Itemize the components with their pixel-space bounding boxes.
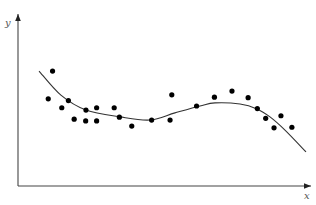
data-point-19 bbox=[246, 95, 251, 100]
data-point-16 bbox=[194, 103, 199, 108]
data-point-3 bbox=[59, 105, 64, 110]
y-axis-label: y bbox=[4, 17, 11, 28]
data-point-12 bbox=[129, 123, 134, 128]
data-point-6 bbox=[94, 105, 99, 110]
data-point-22 bbox=[278, 113, 283, 118]
data-point-23 bbox=[271, 125, 276, 130]
fitted-curve bbox=[39, 71, 306, 152]
data-point-9 bbox=[83, 118, 88, 123]
data-point-17 bbox=[212, 95, 217, 100]
data-point-24 bbox=[289, 125, 294, 130]
data-point-11 bbox=[117, 115, 122, 120]
scatter-chart: y x bbox=[0, 0, 316, 205]
data-point-4 bbox=[66, 98, 71, 103]
data-point-1 bbox=[50, 68, 55, 73]
data-point-2 bbox=[46, 96, 51, 101]
data-points bbox=[46, 68, 295, 130]
data-point-18 bbox=[229, 89, 234, 94]
data-point-21 bbox=[263, 116, 268, 121]
data-point-20 bbox=[255, 106, 260, 111]
data-point-8 bbox=[72, 117, 77, 122]
data-point-5 bbox=[83, 107, 88, 112]
data-point-10 bbox=[94, 118, 99, 123]
data-point-15 bbox=[169, 92, 174, 97]
data-point-13 bbox=[149, 117, 154, 122]
x-axis-label: x bbox=[304, 190, 310, 201]
data-point-14 bbox=[167, 117, 172, 122]
data-point-7 bbox=[112, 105, 117, 110]
